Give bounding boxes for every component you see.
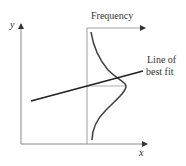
best-fit-frequency-diagram: y x Frequency Line of best fit	[0, 0, 186, 166]
best-fit-label-line2: best fit	[146, 66, 174, 77]
frequency-axis-label: Frequency	[91, 10, 133, 21]
x-axis-label: x	[138, 147, 144, 158]
best-fit-label-line1: Line of	[147, 54, 177, 65]
y-axis-label: y	[9, 19, 15, 30]
